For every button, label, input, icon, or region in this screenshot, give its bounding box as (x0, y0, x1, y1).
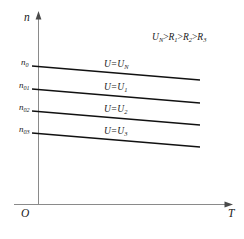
origin-label: O (21, 208, 29, 220)
curve-label-u1-base: U=U (104, 82, 124, 92)
intercept-label-n03: n03 (19, 125, 30, 135)
intercept-label-n02: n02 (19, 103, 30, 113)
intercept-label-n0: n0 (21, 58, 29, 68)
annotation-u: U (152, 32, 159, 42)
annotation-r3-sub: 3 (203, 36, 206, 43)
curve-label-un: U=UN (104, 60, 128, 70)
intercept-label-n01: n01 (19, 81, 30, 91)
curve-label-u2-base: U=U (104, 104, 124, 114)
motor-characteristic-figure: n T O n0 n01 n02 n03 U=UN U=U1 U=U2 U=U3… (0, 0, 244, 239)
intercept-sub-n02: 02 (24, 107, 30, 113)
curve-label-u1: U=U1 (104, 83, 127, 93)
curve-label-u2-sub: 2 (124, 108, 127, 115)
intercept-sub-n03: 03 (24, 129, 30, 135)
y-axis-label: n (24, 12, 30, 24)
curve-label-u2: U=U2 (104, 105, 127, 115)
plot-canvas (0, 0, 244, 239)
curve-label-u3: U=U3 (104, 127, 127, 137)
curve-label-un-base: U=U (104, 59, 124, 69)
curve-label-un-sub: N (124, 63, 128, 70)
curve-label-u3-base: U=U (104, 126, 124, 136)
x-axis-label: T (228, 208, 234, 220)
intercept-sub-n0: 0 (26, 62, 29, 68)
intercept-sub-n01: 01 (24, 85, 30, 91)
y-axis-arrowhead (36, 11, 42, 20)
curve-label-u1-sub: 1 (124, 86, 127, 93)
inequality-annotation: UN>R1>R2>R3 (152, 33, 206, 43)
curve-label-u3-sub: 3 (124, 130, 127, 137)
